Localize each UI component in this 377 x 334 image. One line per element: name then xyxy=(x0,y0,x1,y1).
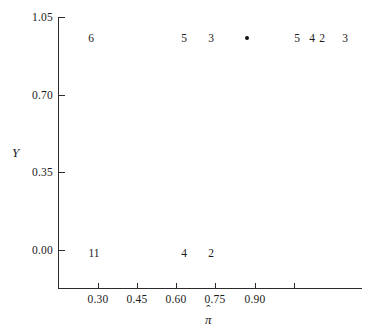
y-axis-tick-label: 0.35 xyxy=(8,166,53,178)
data-point-label: 11 xyxy=(88,247,99,259)
x-axis-tick-label: 0.30 xyxy=(88,293,109,305)
data-point-label: 4 xyxy=(309,32,315,44)
y-axis-tick xyxy=(59,95,65,96)
data-point-label: 5 xyxy=(181,32,187,44)
x-axis-line xyxy=(58,288,362,289)
x-axis-tick-label: 0.45 xyxy=(127,293,148,305)
scatter-plot-figure: 1.05 0.70 0.35 0.00 0.30 0.45 0.60 0.75 … xyxy=(0,0,377,334)
x-axis-tick-label: 0.90 xyxy=(245,293,266,305)
y-axis-title: Y xyxy=(12,145,19,161)
y-axis-line xyxy=(58,17,59,289)
x-axis-tick xyxy=(294,283,295,289)
data-point-label: 4 xyxy=(181,247,187,259)
y-axis-tick-label: 0.70 xyxy=(8,89,53,101)
data-point-label: 3 xyxy=(208,32,214,44)
x-axis-tick xyxy=(137,283,138,289)
data-point-marker xyxy=(245,36,249,40)
data-point-label: 6 xyxy=(88,32,94,44)
data-point-label: 5 xyxy=(294,32,300,44)
y-axis-tick xyxy=(59,17,65,18)
x-axis-tick xyxy=(98,283,99,289)
y-axis-tick-label: 1.05 xyxy=(8,11,53,23)
x-axis-tick-label: 0.60 xyxy=(166,293,187,305)
data-point-label: 2 xyxy=(208,247,214,259)
y-axis-tick xyxy=(59,172,65,173)
x-axis-tick xyxy=(255,283,256,289)
y-axis-tick-label: 0.00 xyxy=(8,244,53,256)
pi-hat-symbol: ˆ π xyxy=(205,312,212,328)
x-axis-tick xyxy=(58,283,59,289)
x-axis-tick xyxy=(176,283,177,289)
data-point-label: 2 xyxy=(319,32,325,44)
data-point-label: 3 xyxy=(342,32,348,44)
hat-accent-icon: ˆ xyxy=(206,304,210,316)
y-axis-tick xyxy=(59,250,65,251)
x-axis-title: ˆ π xyxy=(205,312,212,328)
x-axis-tick xyxy=(215,283,216,289)
